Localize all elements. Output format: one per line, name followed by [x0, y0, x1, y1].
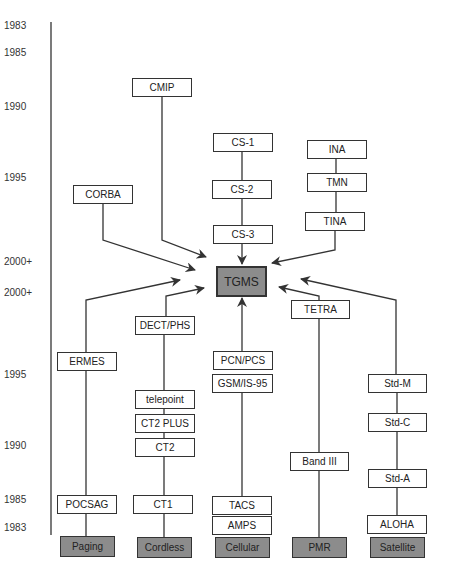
category-paging: Paging	[60, 536, 115, 557]
year-label-1983-bottom: 1983	[4, 522, 40, 533]
node-gsm-is95: GSM/IS-95	[212, 374, 273, 393]
year-label-2000-bottom: 2000+	[4, 287, 40, 298]
node-ermes: ERMES	[57, 352, 117, 371]
node-pocsag: POCSAG	[57, 495, 117, 514]
year-label-1995-bottom: 1995	[4, 369, 40, 380]
node-std-m: Std-M	[368, 374, 427, 393]
node-cs2: CS-2	[212, 180, 272, 199]
node-telepoint: telepoint	[135, 390, 195, 409]
node-cs1: CS-1	[213, 133, 273, 152]
node-pcn-pcs: PCN/PCS	[213, 351, 273, 370]
node-ct1: CT1	[133, 495, 193, 514]
year-label-1990-top: 1990	[4, 101, 40, 112]
node-amps: AMPS	[212, 516, 272, 535]
node-ct2plus: CT2 PLUS	[135, 414, 195, 433]
node-tetra: TETRA	[291, 300, 350, 319]
node-ct2: CT2	[135, 438, 195, 457]
year-label-2000-top: 2000+	[4, 256, 40, 267]
category-cellular: Cellular	[215, 537, 270, 558]
node-corba: CORBA	[73, 185, 133, 204]
node-tmn: TMN	[307, 173, 367, 192]
node-cmip: CMIP	[132, 78, 192, 97]
year-label-1995-top: 1995	[4, 172, 40, 183]
node-cs3: CS-3	[213, 225, 273, 244]
category-satellite: Satellite	[370, 537, 425, 558]
node-std-c: Std-C	[368, 413, 427, 432]
year-label-1990-bottom: 1990	[4, 440, 40, 451]
node-ina: INA	[307, 140, 367, 159]
year-label-1985-bottom: 1985	[4, 494, 40, 505]
node-tacs: TACS	[212, 496, 272, 515]
node-aloha: ALOHA	[367, 515, 427, 534]
category-cordless: Cordless	[137, 537, 192, 558]
node-std-a: Std-A	[368, 469, 427, 488]
year-label-1983-top: 1983	[4, 20, 40, 31]
node-band-iii: Band III	[290, 452, 349, 471]
year-label-1985-top: 1985	[4, 47, 40, 58]
node-dect-phs: DECT/PHS	[135, 316, 195, 335]
node-tina: TINA	[305, 212, 365, 231]
node-tgms: TGMS	[216, 266, 267, 297]
category-pmr: PMR	[292, 537, 347, 558]
